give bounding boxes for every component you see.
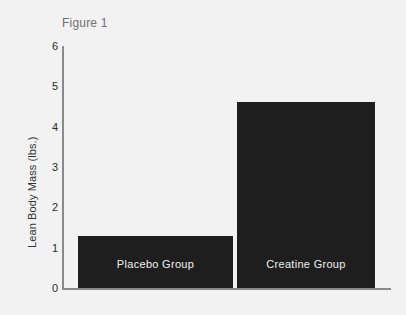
figure-1-chart: Figure 1 Lean Body Mass (lbs.) 0123456 P… [0, 0, 406, 315]
x-axis-line [62, 288, 391, 290]
bar-series: Placebo Group Creatine Group [0, 46, 406, 288]
bar-label-creatine: Creatine Group [237, 258, 375, 270]
bar-placebo: Placebo Group [78, 236, 233, 288]
chart-title: Figure 1 [62, 16, 108, 30]
bar-creatine: Creatine Group [237, 102, 375, 288]
bar-label-placebo: Placebo Group [78, 258, 233, 270]
